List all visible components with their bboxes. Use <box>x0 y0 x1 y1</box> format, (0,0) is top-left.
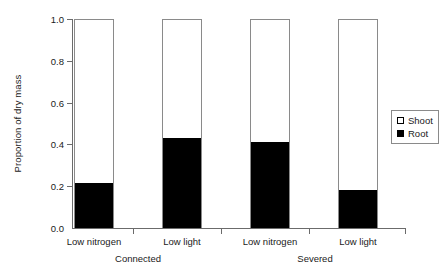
bar-root-severed-low-light <box>339 190 377 228</box>
y-tick-label-0.8: 0.8 <box>30 56 64 67</box>
x-category-label-4: Low light <box>323 236 393 247</box>
legend-label-shoot: Shoot <box>408 115 433 126</box>
y-tick-label-0.2: 0.2 <box>30 181 64 192</box>
y-tick-label-0.4: 0.4 <box>30 139 64 150</box>
chart-legend: Shoot Root <box>391 110 439 144</box>
x-category-label-3: Low nitrogen <box>230 236 310 247</box>
x-category-label-2: Low light <box>147 236 217 247</box>
bar-root-severed-low-nitrogen <box>251 142 289 228</box>
y-tick-label-1.0: 1.0 <box>30 14 64 25</box>
x-tick-mark-2 <box>221 229 222 234</box>
chart-figure: Proportion of dry mass 1.0 0.8 0.6 0.4 0… <box>0 0 445 279</box>
x-tick-mark-3 <box>309 229 310 234</box>
x-category-label-1: Low nitrogen <box>54 236 134 247</box>
x-group-label-severed: Severed <box>275 253 355 264</box>
x-group-label-connected: Connected <box>98 253 178 264</box>
legend-swatch-shoot-icon <box>397 117 404 124</box>
y-tick-mark-0.2 <box>67 186 72 187</box>
bar-root-connected-low-nitrogen <box>75 183 113 228</box>
legend-entry-root: Root <box>397 128 433 139</box>
y-axis-line <box>72 19 73 229</box>
x-tick-mark-1 <box>133 229 134 234</box>
y-tick-mark-0.8 <box>67 61 72 62</box>
y-tick-mark-0.4 <box>67 144 72 145</box>
x-tick-mark-4 <box>405 229 406 234</box>
y-tick-label-0.0: 0.0 <box>30 223 64 234</box>
legend-label-root: Root <box>408 128 428 139</box>
legend-swatch-root-icon <box>397 130 404 137</box>
y-tick-mark-0.6 <box>67 103 72 104</box>
y-tick-mark-1.0 <box>67 19 72 20</box>
bar-root-connected-low-light <box>163 138 201 228</box>
y-axis-title: Proportion of dry mass <box>12 44 23 204</box>
legend-entry-shoot: Shoot <box>397 115 433 126</box>
y-tick-label-0.6: 0.6 <box>30 98 64 109</box>
x-axis-line <box>72 228 406 229</box>
